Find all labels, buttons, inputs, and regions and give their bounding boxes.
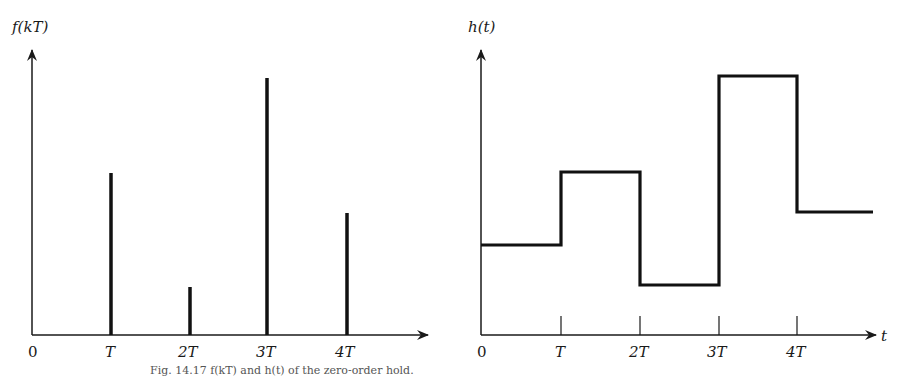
left-tick-3T: 3T	[256, 343, 277, 361]
right-x-axis-label: t	[881, 327, 888, 345]
zero-order-hold-step-line	[481, 76, 873, 285]
left-tick-4T: 4T	[334, 343, 356, 361]
left-tick-0: 0	[28, 343, 38, 361]
right-tick-T: T	[555, 343, 566, 361]
right-x-tick-labels: 0 T 2T 3T 4T	[477, 343, 807, 361]
right-x-ticks	[561, 316, 797, 335]
left-tick-2T: 2T	[177, 343, 199, 361]
right-tick-3T: 3T	[707, 343, 728, 361]
left-x-tick-labels: 0 T 2T 3T 4T	[28, 343, 356, 361]
figure-caption: Fig. 14.17 f(kT) and h(t) of the zero-or…	[150, 364, 770, 382]
figure-canvas: f(kT) 0 T 2T 3T 4T h(t) t	[0, 0, 907, 382]
left-chart-sampled-signal: f(kT) 0 T 2T 3T 4T	[11, 18, 428, 361]
left-tick-T: T	[105, 343, 116, 361]
right-chart-zero-order-hold: h(t) t 0 T 2T 3T 4T	[468, 18, 888, 361]
right-tick-0: 0	[477, 343, 487, 361]
right-tick-4T: 4T	[785, 343, 807, 361]
right-y-axis-label: h(t)	[468, 18, 496, 36]
left-y-axis-label: f(kT)	[11, 18, 48, 36]
left-sample-bars	[111, 78, 347, 335]
right-tick-2T: 2T	[628, 343, 650, 361]
